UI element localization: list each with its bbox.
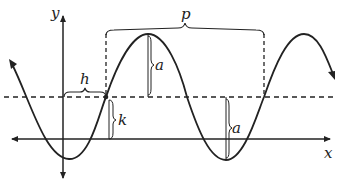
x-axis-label: x	[324, 144, 333, 162]
amplitude-top-label: a	[155, 56, 164, 74]
amplitude-bottom-label: a	[232, 119, 241, 137]
period-brace	[106, 23, 264, 35]
sinusoid-diagram: p h k a a y x	[0, 0, 339, 182]
vertical-shift-label: k	[118, 111, 127, 129]
period-label: p	[181, 5, 191, 23]
horizontal-shift-label: h	[80, 70, 90, 88]
curve-right-arrow-icon	[328, 71, 335, 80]
horizontal-shift-brace	[64, 88, 106, 97]
y-axis-label: y	[50, 4, 60, 22]
amplitude-top-brace	[148, 36, 154, 95]
vertical-shift-brace	[109, 100, 116, 139]
